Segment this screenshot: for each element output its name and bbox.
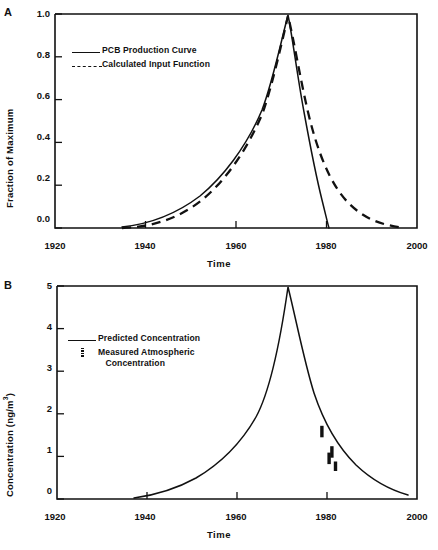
panel-b-plot: [0, 275, 438, 550]
panel-a-plot: [0, 0, 438, 275]
measured-data-markers: [320, 426, 337, 471]
panel-a: A Fraction of Maximum 1.0 0.8 0.6 0.4 0.…: [0, 0, 438, 275]
error-bar-marker: [334, 462, 337, 472]
error-bar-marker: [320, 426, 323, 438]
panel-b: B Concentration (ng/m3) 5 4 3 2 1 0 1920…: [0, 275, 438, 550]
error-bar-marker: [330, 446, 333, 458]
